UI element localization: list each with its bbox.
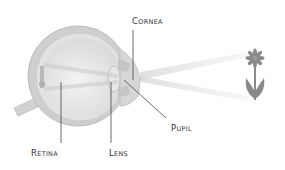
- pupil-label: PUPIL: [171, 123, 192, 133]
- cornea-label-text: CORNEA: [132, 16, 163, 26]
- retina-label-text: RETINA: [31, 148, 58, 158]
- light-ray-upper: [140, 52, 248, 80]
- lens-label: LENS: [109, 148, 128, 158]
- label-rest: ETINA: [37, 150, 58, 158]
- label-rest: ENS: [114, 150, 128, 158]
- label-rest: UPIL: [176, 125, 191, 133]
- cornea-shape: [118, 48, 140, 106]
- lens-shape: [108, 66, 120, 92]
- label-rest: ORNEA: [138, 18, 163, 26]
- retina-label: RETINA: [31, 148, 58, 158]
- flower-icon: [246, 49, 265, 101]
- cornea-label: CORNEA: [132, 16, 163, 26]
- light-ray-lower: [140, 76, 248, 101]
- eye-diagram: CORNEA PUPIL RETINA LENS: [0, 0, 285, 170]
- pupil-label-text: PUPIL: [171, 123, 192, 133]
- lens-label-text: LENS: [109, 148, 128, 158]
